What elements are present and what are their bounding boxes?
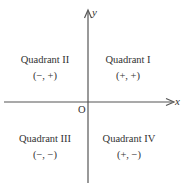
quadrant-ii: Quadrant II (−, +) [12,54,78,82]
y-axis-label: y [92,6,97,18]
quadrant-i: Quadrant I (+, +) [98,54,158,82]
x-axis-label: x [175,95,180,107]
quadrant-iv-signs: (+, −) [96,149,162,161]
quadrant-ii-signs: (−, +) [12,70,78,82]
origin-label: O [78,104,86,116]
quadrant-iii-name: Quadrant III [12,133,78,145]
quadrant-iv-name: Quadrant IV [96,133,162,145]
quadrant-i-name: Quadrant I [98,54,158,66]
quadrant-iv: Quadrant IV (+, −) [96,133,162,161]
quadrant-iii-signs: (−, −) [12,149,78,161]
quadrant-i-signs: (+, +) [98,70,158,82]
quadrant-ii-name: Quadrant II [12,54,78,66]
quadrant-iii: Quadrant III (−, −) [12,133,78,161]
